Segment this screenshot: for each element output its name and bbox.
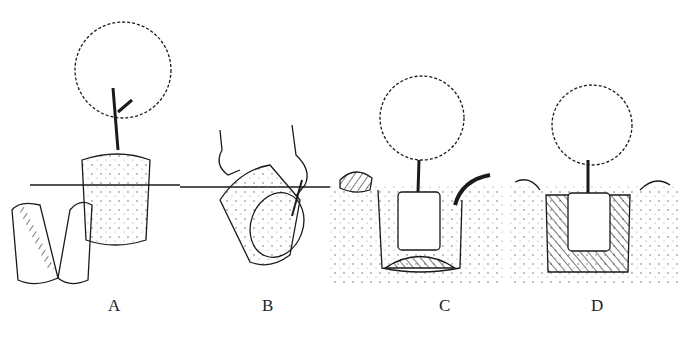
tree-canopy <box>75 22 171 118</box>
container-inner <box>20 205 52 270</box>
panel-b <box>180 125 330 265</box>
container-left <box>12 203 58 283</box>
root-ball <box>82 154 150 245</box>
panel-a <box>12 22 180 284</box>
root-ball-side <box>220 165 300 265</box>
panel-label-b: B <box>262 296 273 316</box>
root-ball <box>398 192 440 250</box>
root-ball <box>568 193 610 251</box>
tree-canopy <box>552 85 632 165</box>
panel-c <box>330 76 505 285</box>
left-hand <box>219 130 240 175</box>
panel-label-d: D <box>591 296 603 316</box>
tree-trunk <box>418 160 419 192</box>
tree-canopy <box>380 76 464 160</box>
tree-planting-illustration <box>0 0 686 338</box>
panel-d <box>510 85 680 285</box>
panel-label-c: C <box>439 296 450 316</box>
soil-pile <box>340 172 372 192</box>
tree-trunk <box>113 88 132 150</box>
panel-label-a: A <box>108 296 120 316</box>
